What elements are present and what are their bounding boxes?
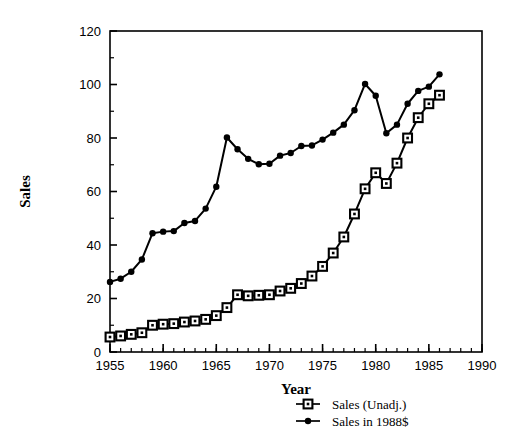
sales-line-chart: 0204060801001201955196019651970197519801… xyxy=(0,0,513,446)
data-point xyxy=(107,279,113,285)
data-point xyxy=(415,88,421,94)
data-point xyxy=(149,230,155,236)
data-point xyxy=(265,290,274,299)
y-tick-label: 120 xyxy=(79,24,101,39)
data-point xyxy=(127,330,136,339)
data-point xyxy=(350,210,359,219)
data-point xyxy=(436,71,442,77)
data-point xyxy=(382,179,391,188)
data-point xyxy=(223,303,232,312)
data-point xyxy=(192,218,198,224)
data-point xyxy=(128,269,134,275)
x-tick-label: 1965 xyxy=(202,358,231,373)
legend-label: Sales (Unadj.) xyxy=(332,397,406,412)
data-point xyxy=(266,160,272,166)
data-point xyxy=(191,317,200,326)
data-point xyxy=(329,249,338,258)
data-point xyxy=(234,146,240,152)
data-point xyxy=(106,333,115,342)
x-tick-label: 1990 xyxy=(468,358,497,373)
x-tick-label: 1980 xyxy=(361,358,390,373)
data-point xyxy=(298,143,304,149)
y-tick-label: 60 xyxy=(87,184,101,199)
x-tick-label: 1970 xyxy=(255,358,284,373)
y-axis-title: Sales xyxy=(17,175,33,208)
data-point xyxy=(404,101,410,107)
data-point xyxy=(254,291,263,300)
data-point xyxy=(362,81,368,87)
x-tick-label: 1960 xyxy=(149,358,178,373)
data-point xyxy=(414,113,423,122)
data-point xyxy=(318,262,327,271)
data-point xyxy=(361,184,370,193)
data-point xyxy=(169,319,178,328)
data-point xyxy=(244,291,253,300)
x-tick-label: 1955 xyxy=(96,358,125,373)
data-point xyxy=(245,156,251,162)
data-point xyxy=(180,318,189,327)
data-point xyxy=(117,276,123,282)
data-point xyxy=(137,328,146,337)
data-point xyxy=(330,129,336,135)
data-point xyxy=(224,134,230,140)
data-point xyxy=(424,99,433,108)
data-point xyxy=(435,91,444,100)
data-point xyxy=(426,83,432,89)
y-tick-label: 20 xyxy=(87,291,101,306)
y-tick-label: 100 xyxy=(79,77,101,92)
y-tick-label: 80 xyxy=(87,131,101,146)
data-point xyxy=(171,228,177,234)
data-point xyxy=(233,290,242,299)
data-point xyxy=(160,228,166,234)
data-point xyxy=(116,332,125,341)
data-point xyxy=(373,93,379,99)
data-point xyxy=(139,256,145,262)
legend-marker xyxy=(305,418,311,424)
data-point xyxy=(341,121,347,127)
series-2 xyxy=(107,71,443,285)
data-point xyxy=(309,142,315,148)
data-point xyxy=(351,107,357,113)
data-point xyxy=(212,311,221,320)
data-point xyxy=(297,279,306,288)
data-point xyxy=(277,152,283,158)
data-point xyxy=(148,321,157,330)
x-tick-label: 1985 xyxy=(414,358,443,373)
data-point xyxy=(213,183,219,189)
x-axis-title: Year xyxy=(281,381,311,397)
legend-label: Sales in 1988$ xyxy=(332,414,409,429)
data-point xyxy=(256,161,262,167)
data-point xyxy=(276,287,285,296)
data-point xyxy=(308,272,317,281)
data-point xyxy=(383,130,389,136)
data-point xyxy=(159,320,168,329)
data-point xyxy=(287,150,293,156)
data-point xyxy=(394,121,400,127)
data-point xyxy=(201,315,210,324)
legend-item-2: Sales in 1988$ xyxy=(296,414,409,429)
x-tick-label: 1975 xyxy=(308,358,337,373)
plot-frame xyxy=(110,31,482,352)
legend-item-1: Sales (Unadj.) xyxy=(296,397,406,412)
data-point xyxy=(319,136,325,142)
data-point xyxy=(403,134,412,143)
data-point xyxy=(339,233,348,242)
data-point xyxy=(286,284,295,293)
data-point xyxy=(393,159,402,168)
chart-canvas: 0204060801001201955196019651970197519801… xyxy=(0,0,513,446)
y-tick-label: 40 xyxy=(87,238,101,253)
data-point xyxy=(371,168,380,177)
legend-marker xyxy=(304,400,313,409)
data-point xyxy=(181,220,187,226)
data-point xyxy=(202,205,208,211)
